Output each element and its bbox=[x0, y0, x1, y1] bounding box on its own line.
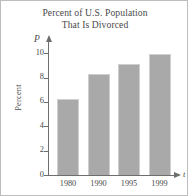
bar bbox=[149, 54, 171, 175]
y-tick: 10 bbox=[48, 53, 49, 54]
y-tick-label: 8 bbox=[40, 72, 44, 81]
bar bbox=[88, 74, 110, 175]
y-tick-label: 4 bbox=[40, 121, 44, 130]
x-axis-arrowhead bbox=[174, 172, 181, 178]
y-axis-label: Percent bbox=[14, 68, 23, 128]
bar bbox=[57, 99, 79, 175]
y-tick-mark bbox=[44, 175, 49, 176]
x-tick-label: 1999 bbox=[145, 179, 175, 188]
chart-title-line-1: Percent of U.S. Population bbox=[1, 7, 188, 19]
y-tick: 6 bbox=[48, 102, 49, 103]
x-tick-label: 1990 bbox=[84, 179, 114, 188]
y-tick: 8 bbox=[48, 78, 49, 79]
y-tick-mark bbox=[44, 151, 49, 152]
y-tick-mark bbox=[44, 53, 49, 54]
y-tick-label: 6 bbox=[40, 96, 44, 105]
y-tick: 0 bbox=[48, 175, 49, 176]
y-tick-mark bbox=[44, 126, 49, 127]
x-tick-label: 1980 bbox=[53, 179, 83, 188]
y-axis-line bbox=[48, 41, 49, 175]
plot-area: 0246810 1980199019951999 bbox=[48, 41, 176, 175]
chart-title-line-2: That Is Divorced bbox=[1, 19, 188, 31]
y-axis-arrowhead bbox=[46, 35, 52, 42]
x-axis-variable-symbol: t bbox=[183, 169, 185, 179]
y-tick-mark bbox=[44, 102, 49, 103]
bar bbox=[118, 64, 140, 175]
y-axis-variable-symbol: P bbox=[34, 34, 40, 44]
y-tick: 2 bbox=[48, 151, 49, 152]
y-tick-label: 0 bbox=[40, 170, 44, 179]
y-tick-mark bbox=[44, 78, 49, 79]
x-axis-line bbox=[48, 175, 174, 176]
y-tick-label: 2 bbox=[40, 145, 44, 154]
y-tick: 4 bbox=[48, 126, 49, 127]
chart-title: Percent of U.S. Population That Is Divor… bbox=[1, 7, 188, 30]
x-tick-label: 1995 bbox=[114, 179, 144, 188]
divorce-percent-bar-chart: Percent of U.S. Population That Is Divor… bbox=[0, 0, 188, 196]
y-tick-label: 10 bbox=[36, 48, 44, 57]
